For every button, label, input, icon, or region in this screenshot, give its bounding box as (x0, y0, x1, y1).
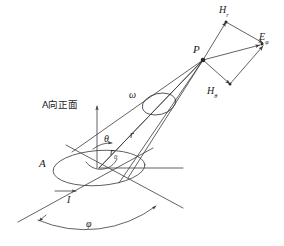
field-vector-parallelogram (203, 22, 263, 84)
label-area-a: A (39, 158, 46, 169)
label-point-p: P (193, 44, 200, 55)
label-e-phi-subscript: φ (265, 38, 268, 45)
figure-canvas: P Hr Hθ Eφ ω θ r r0 A I φ A向正面 (0, 0, 284, 246)
cone-outline (72, 60, 203, 183)
label-h-r: Hr (219, 5, 229, 17)
label-r0: r0 (110, 147, 117, 159)
label-current-i: I (67, 195, 70, 205)
label-theta: θ (104, 134, 109, 144)
label-phi: φ (86, 219, 92, 229)
label-e-phi: Eφ (259, 32, 269, 44)
label-r0-subscript: 0 (114, 153, 117, 160)
label-h-theta-subscript: θ (214, 92, 217, 99)
diagram-svg (0, 0, 284, 246)
label-front-view: A向正面 (42, 100, 79, 110)
label-h-r-subscript: r (226, 11, 228, 18)
phi-arc-start-arrow (39, 215, 46, 221)
omega-solid-angle-ellipse (140, 90, 178, 119)
point-markers (201, 21, 264, 86)
label-omega: ω (129, 90, 136, 100)
label-r: r (130, 130, 134, 140)
label-h-theta: Hθ (207, 86, 217, 98)
phi-arc (38, 206, 156, 230)
